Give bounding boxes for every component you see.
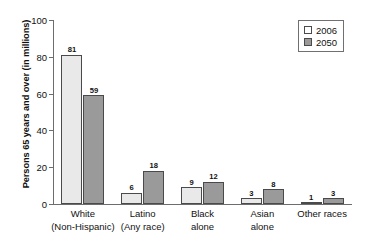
y-tick-label-100: 100 bbox=[31, 15, 47, 26]
y-axis-line bbox=[53, 20, 54, 204]
legend-label-2006: 2006 bbox=[316, 25, 337, 36]
bar-value-label: 12 bbox=[209, 172, 217, 181]
x-axis-label-line1: Black bbox=[191, 208, 214, 219]
x-axis-label-line2: alone bbox=[212, 221, 312, 234]
bar-value-label: 18 bbox=[149, 161, 157, 170]
bar: 12 bbox=[203, 182, 224, 204]
x-axis-label-line1: White bbox=[71, 208, 95, 219]
x-axis-label: Other races bbox=[272, 208, 372, 221]
x-axis-label-line1: Other races bbox=[297, 208, 347, 219]
bar-value-label: 6 bbox=[130, 183, 134, 192]
legend-label-2050: 2050 bbox=[316, 37, 337, 48]
bar: 18 bbox=[143, 171, 164, 204]
bar: 3 bbox=[323, 198, 344, 204]
y-axis-title: Persons 65 years and over (in millions) bbox=[21, 4, 31, 204]
bar: 3 bbox=[241, 198, 262, 204]
bar-chart: Persons 65 years and over (in millions) … bbox=[0, 0, 373, 249]
bar-value-label: 59 bbox=[90, 86, 98, 95]
bar-group: 618 bbox=[121, 20, 164, 204]
bar-group: 8159 bbox=[61, 20, 104, 204]
bar-group: 38 bbox=[241, 20, 284, 204]
bar: 8 bbox=[263, 189, 284, 204]
y-tick-label-60: 60 bbox=[36, 88, 47, 99]
legend-swatch-2050-icon bbox=[304, 38, 312, 46]
legend-item-2050: 2050 bbox=[304, 36, 337, 48]
bar: 9 bbox=[181, 187, 202, 204]
x-axis-label-line1: Asian bbox=[250, 208, 274, 219]
y-tick-label-40: 40 bbox=[36, 125, 47, 136]
bar-value-label: 9 bbox=[189, 178, 193, 187]
bar: 59 bbox=[83, 95, 104, 204]
bar: 6 bbox=[121, 193, 142, 204]
legend-swatch-2006-icon bbox=[304, 26, 312, 34]
y-tick-label-80: 80 bbox=[36, 51, 47, 62]
bar: 1 bbox=[301, 202, 322, 204]
bar-value-label: 81 bbox=[68, 45, 76, 54]
bar-value-label: 3 bbox=[249, 189, 253, 198]
y-tick-label-20: 20 bbox=[36, 162, 47, 173]
legend: 2006 2050 bbox=[298, 20, 344, 52]
bar-value-label: 1 bbox=[309, 193, 313, 202]
bar-group: 912 bbox=[181, 20, 224, 204]
bar-value-label: 8 bbox=[271, 180, 275, 189]
bar-value-label: 3 bbox=[331, 189, 335, 198]
legend-item-2006: 2006 bbox=[304, 24, 337, 36]
x-axis-line bbox=[53, 204, 352, 205]
bar: 81 bbox=[61, 55, 82, 204]
